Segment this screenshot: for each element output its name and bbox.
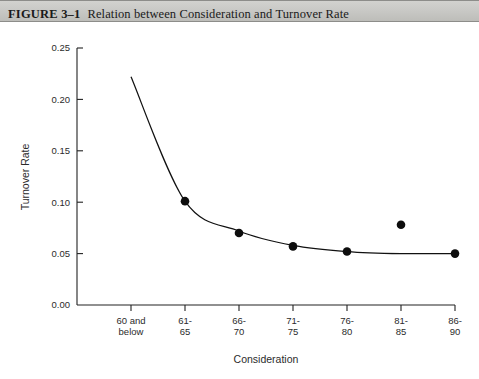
figure-caption-text: FIGURE 3–1Relation between Consideration… — [8, 4, 349, 22]
x-tick-label: below — [119, 326, 144, 337]
x-tick-label: 66- — [232, 315, 246, 326]
turnover-rate-chart: Turnover Rate Consideration 0.000.050.10… — [0, 22, 479, 379]
y-tick-label: 0.00 — [52, 299, 71, 310]
x-tick-label: 75 — [288, 326, 299, 337]
y-tick-label: 0.15 — [52, 145, 71, 156]
x-tick-label: 61- — [178, 315, 192, 326]
data-point — [397, 221, 406, 230]
x-tick-label: 60 and — [116, 315, 145, 326]
x-tick-label: 70 — [234, 326, 245, 337]
figure-caption: Relation between Consideration and Turno… — [88, 7, 349, 21]
data-point — [343, 247, 352, 256]
data-point — [451, 249, 460, 258]
figure-caption-bar: FIGURE 3–1Relation between Consideration… — [0, 0, 479, 22]
x-tick-label: 90 — [450, 326, 461, 337]
figure-number: FIGURE 3–1 — [8, 7, 81, 21]
y-tick-label: 0.05 — [52, 248, 71, 259]
x-axis-ticks: 60 andbelow61-6566-7071-7576-8081-8586-9… — [116, 305, 461, 337]
y-tick-label: 0.20 — [52, 94, 71, 105]
data-point — [181, 197, 190, 206]
x-tick-label: 76- — [340, 315, 354, 326]
fitted-curve-path — [131, 77, 455, 254]
y-tick-label: 0.25 — [52, 42, 71, 53]
y-tick-label: 0.10 — [52, 197, 71, 208]
x-tick-label: 81- — [394, 315, 408, 326]
x-axis-title: Consideration — [234, 353, 299, 365]
x-tick-label: 65 — [180, 326, 191, 337]
x-tick-label: 86- — [448, 315, 462, 326]
fitted-curve — [131, 77, 455, 254]
y-axis-ticks: 0.000.050.100.150.200.25 — [52, 42, 84, 310]
chart-container: Turnover Rate Consideration 0.000.050.10… — [0, 22, 479, 379]
data-point — [235, 229, 244, 238]
y-axis-title: Turnover Rate — [19, 143, 31, 210]
data-point — [289, 242, 298, 251]
x-tick-label: 85 — [396, 326, 407, 337]
x-tick-label: 80 — [342, 326, 353, 337]
x-tick-label: 71- — [286, 315, 300, 326]
